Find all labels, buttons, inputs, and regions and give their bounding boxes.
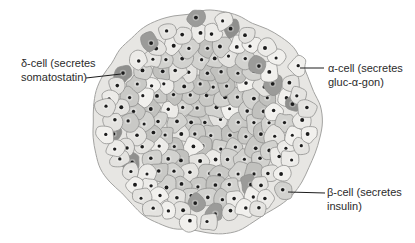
alpha-cell-label-line2: gluc-α-gon) — [328, 75, 403, 89]
beta-cell-label: β-cell (secretes insulin) — [327, 185, 402, 213]
islet-diagram: δ-cell (secretes somatostatin) α-cell (s… — [0, 0, 415, 243]
beta-cell-label-line2: insulin) — [327, 199, 402, 213]
alpha-cell-label-line1: α-cell (secretes — [328, 61, 403, 75]
alpha-cell-label: α-cell (secretes gluc-α-gon) — [328, 61, 403, 89]
delta-cell-label: δ-cell (secretes somatostatin) — [21, 56, 96, 84]
beta-cell-label-line1: β-cell (secretes — [327, 185, 402, 199]
delta-cell-label-line2: somatostatin) — [21, 70, 96, 84]
delta-cell-label-line1: δ-cell (secretes — [21, 56, 96, 70]
